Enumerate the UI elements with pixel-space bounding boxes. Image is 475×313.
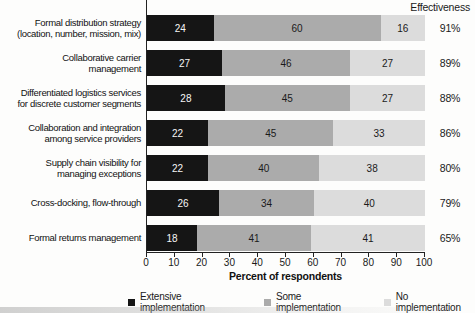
effectiveness-value: 91% — [427, 15, 473, 41]
x-axis-title: Percent of respondents — [146, 270, 425, 282]
bar-segment-value: 18 — [166, 233, 177, 244]
bar-segment-value: 33 — [374, 128, 385, 139]
bar-row: 246016 — [147, 15, 425, 41]
bar-segment-extensive: 26 — [147, 190, 219, 216]
tick-label: 100 — [409, 257, 439, 268]
bar-segment-value: 41 — [362, 233, 373, 244]
bar-segment-value: 46 — [280, 58, 291, 69]
bar-segment-some: 60 — [214, 15, 381, 41]
tick-label: 0 — [131, 257, 161, 268]
category-label: Formal distribution strategy(location, n… — [0, 15, 141, 41]
bar-segment-no: 16 — [381, 15, 425, 41]
bar-segment-some: 45 — [225, 85, 350, 111]
category-label: Collaboration and integrationamong servi… — [0, 120, 141, 146]
tick-label: 30 — [214, 257, 244, 268]
bar-segment-no: 33 — [333, 120, 425, 146]
bar-segment-value: 40 — [364, 198, 375, 209]
category-label: Formal returns management — [0, 225, 141, 251]
bar-segment-value: 28 — [180, 93, 191, 104]
bar-row: 184141 — [147, 225, 425, 251]
bar-segment-value: 60 — [292, 23, 303, 34]
tick-label: 60 — [298, 257, 328, 268]
category-label-line: Cross-docking, flow-through — [31, 197, 141, 209]
effectiveness-value: 65% — [427, 225, 473, 251]
bar-segment-extensive: 24 — [147, 15, 214, 41]
bar-segment-value: 45 — [282, 93, 293, 104]
category-label-line: (location, number, mission, mix) — [17, 28, 141, 40]
bar-segment-no: 41 — [311, 225, 425, 251]
category-label: Cross-docking, flow-through — [0, 190, 141, 216]
tick-label: 40 — [242, 257, 272, 268]
category-label-line: Collaboration and integration — [28, 122, 141, 134]
bar-segment-value: 22 — [172, 163, 183, 174]
tick-label: 90 — [381, 257, 411, 268]
tick-label: 70 — [326, 257, 356, 268]
bar-segment-value: 38 — [367, 163, 378, 174]
bar-row: 263440 — [147, 190, 425, 216]
bar-segment-extensive: 27 — [147, 50, 222, 76]
tick-label: 50 — [270, 257, 300, 268]
bar-segment-value: 26 — [178, 198, 189, 209]
tick-label: 20 — [187, 257, 217, 268]
tick-label: 10 — [159, 257, 189, 268]
bar-segment-value: 40 — [258, 163, 269, 174]
bar-segment-no: 38 — [319, 155, 425, 181]
category-label: Collaborative carriermanagement — [0, 50, 141, 76]
bar-segment-value: 41 — [248, 233, 259, 244]
category-label: Supply chain visibility formanaging exce… — [0, 155, 141, 181]
category-label: Differentiated logistics servicesfor dis… — [0, 85, 141, 111]
effectiveness-value: 89% — [427, 50, 473, 76]
category-label-line: managing exceptions — [57, 168, 141, 180]
category-label-line: Differentiated logistics services — [21, 87, 141, 99]
effectiveness-value: 80% — [427, 155, 473, 181]
effectiveness-column-header: Effectiveness — [410, 1, 470, 13]
effectiveness-value: 88% — [427, 85, 473, 111]
scan-shadow-artifact — [0, 307, 445, 313]
category-label-line: among service providers — [44, 133, 141, 145]
effectiveness-value: 86% — [427, 120, 473, 146]
bar-segment-some: 45 — [208, 120, 333, 146]
bar-row: 224038 — [147, 155, 425, 181]
bar-segment-no: 27 — [350, 50, 425, 76]
bar-row: 224533 — [147, 120, 425, 146]
category-label-line: Collaborative carrier — [62, 52, 141, 64]
legend-swatch-no — [384, 299, 391, 306]
category-label-line: management — [89, 63, 141, 75]
legend-swatch-some — [264, 299, 271, 306]
tick-label: 80 — [353, 257, 383, 268]
category-label-line: for discrete customer segments — [17, 98, 141, 110]
bar-segment-extensive: 22 — [147, 155, 208, 181]
bar-segment-value: 16 — [397, 23, 408, 34]
bar-row: 274627 — [147, 50, 425, 76]
bar-segment-no: 27 — [350, 85, 425, 111]
category-label-line: Formal distribution strategy — [35, 17, 141, 29]
category-label-line: Supply chain visibility for — [46, 157, 141, 169]
bar-segment-extensive: 28 — [147, 85, 225, 111]
effectiveness-value: 79% — [427, 190, 473, 216]
y-axis-line — [146, 0, 147, 252]
bar-segment-some: 34 — [219, 190, 314, 216]
bar-row: 284527 — [147, 85, 425, 111]
bar-segment-value: 22 — [172, 128, 183, 139]
stacked-bar-chart-figure: Effectiveness Formal distribution strate… — [0, 0, 475, 313]
bar-segment-value: 34 — [261, 198, 272, 209]
bar-segment-some: 40 — [208, 155, 319, 181]
bar-segment-value: 45 — [265, 128, 276, 139]
bar-segment-value: 27 — [382, 93, 393, 104]
bar-segment-extensive: 18 — [147, 225, 197, 251]
bar-segment-some: 41 — [197, 225, 311, 251]
bar-segment-some: 46 — [222, 50, 350, 76]
category-label-line: Formal returns management — [29, 232, 141, 244]
bar-segment-extensive: 22 — [147, 120, 208, 146]
bar-segment-value: 24 — [175, 23, 186, 34]
bar-segment-value: 27 — [179, 58, 190, 69]
bar-segment-value: 27 — [382, 58, 393, 69]
legend-swatch-extensive — [128, 299, 135, 306]
bar-segment-no: 40 — [314, 190, 425, 216]
